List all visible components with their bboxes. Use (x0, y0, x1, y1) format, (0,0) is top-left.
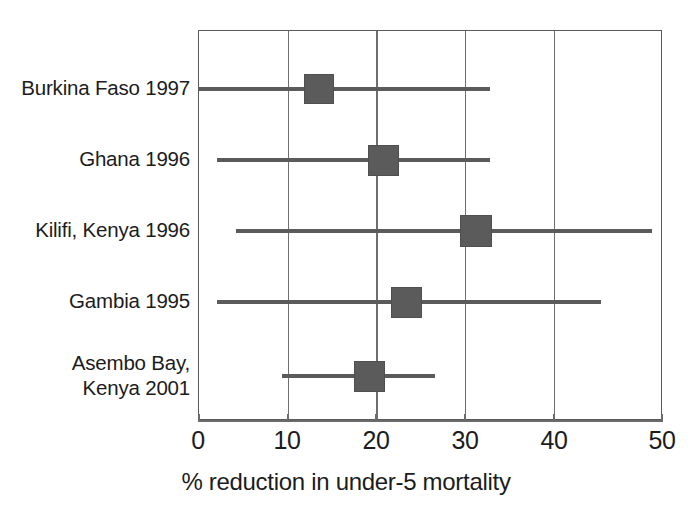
plot-frame (198, 30, 662, 420)
x-tick-label-0: 0 (168, 425, 228, 455)
category-label-asembo-bay-kenya: Asembo Bay, Kenya 2001 (4, 350, 190, 400)
estimate-box (304, 74, 334, 104)
category-label-ghana: Ghana 1996 (4, 146, 190, 171)
x-tick-label-10: 10 (257, 425, 317, 455)
confidence-interval-line (199, 87, 490, 91)
confidence-interval-line (217, 158, 490, 162)
x-tick-20 (375, 414, 377, 422)
category-label-burkina-faso: Burkina Faso 1997 (4, 75, 190, 100)
estimate-box (391, 287, 422, 318)
confidence-interval-line (236, 229, 652, 233)
forest-plot-figure: Burkina Faso 1997 Ghana 1996 Kilifi, Ken… (0, 0, 692, 515)
x-tick-label-50: 50 (632, 425, 692, 455)
x-tick-label-20: 20 (346, 425, 406, 455)
estimate-box (460, 215, 492, 247)
estimate-box (354, 361, 385, 392)
x-tick-10 (287, 414, 289, 422)
x-axis-title: % reduction in under-5 mortality (0, 468, 692, 496)
x-tick-30 (464, 414, 466, 422)
x-tick-label-40: 40 (524, 425, 584, 455)
x-tick-label-30: 30 (435, 425, 495, 455)
estimate-box (368, 145, 399, 176)
x-axis-line (198, 420, 662, 422)
category-label-kilifi-kenya: Kilifi, Kenya 1996 (4, 217, 190, 242)
gridline-40 (554, 31, 555, 419)
x-tick-40 (553, 414, 555, 422)
category-label-gambia: Gambia 1995 (4, 288, 190, 313)
x-tick-50 (661, 414, 663, 422)
x-tick-0 (198, 414, 200, 422)
